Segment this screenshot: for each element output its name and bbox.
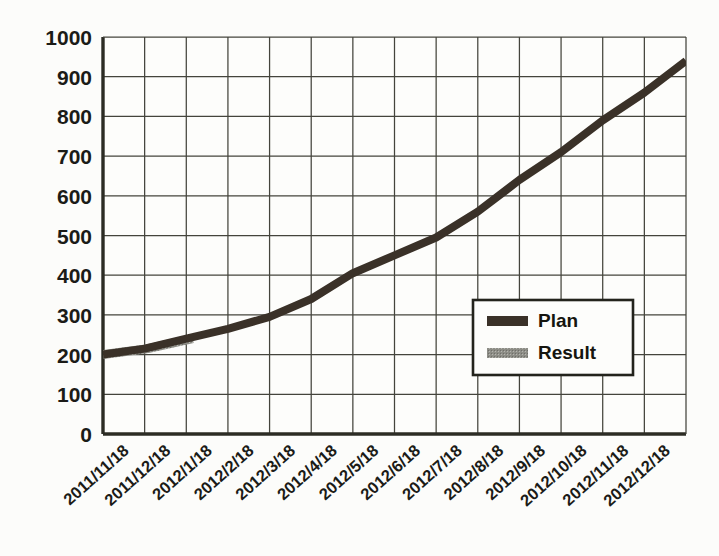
y-tick-label-0: 0 (80, 423, 92, 446)
y-tick-label-600: 600 (57, 185, 92, 208)
chart-canvas: 10009008007006005004003002001000 2011/11… (0, 0, 719, 556)
legend-swatch-result (487, 348, 528, 358)
legend-label-result: Result (538, 342, 597, 363)
y-axis-tick-labels: 10009008007006005004003002001000 (45, 26, 92, 446)
y-tick-label-300: 300 (57, 304, 92, 327)
y-tick-label-200: 200 (57, 344, 92, 367)
y-tick-label-500: 500 (57, 225, 92, 248)
y-tick-label-900: 900 (57, 66, 92, 89)
line-chart: 10009008007006005004003002001000 2011/11… (0, 0, 719, 556)
y-tick-label-1000: 1000 (45, 26, 92, 49)
y-tick-label-700: 700 (57, 145, 92, 168)
legend-label-plan: Plan (538, 310, 578, 331)
chart-legend: Plan Result (473, 300, 633, 375)
legend-swatch-plan (487, 316, 528, 326)
y-tick-label-100: 100 (57, 383, 92, 406)
y-tick-label-800: 800 (57, 105, 92, 128)
y-tick-label-400: 400 (57, 264, 92, 287)
x-axis-tick-labels: 2011/11/182011/12/182012/1/182012/2/1820… (60, 441, 673, 510)
